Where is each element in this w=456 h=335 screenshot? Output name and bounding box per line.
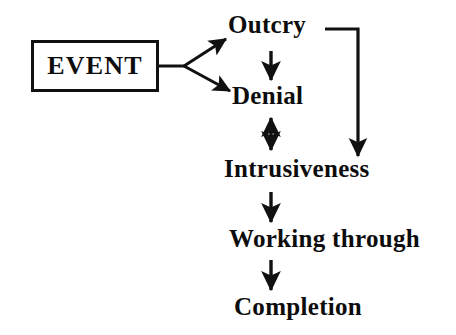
edge-outcry-to-intrusiveness (325, 29, 358, 156)
diagram-canvas: EVENT Outcry Denial Intrusiveness Workin… (0, 0, 456, 335)
node-label-completion: Completion (234, 294, 362, 319)
node-label-denial: Denial (232, 83, 303, 108)
edge-event-to-denial (184, 66, 230, 91)
node-label-outcry: Outcry (228, 12, 306, 37)
event-box: EVENT (31, 40, 159, 92)
edge-event-to-outcry (184, 39, 226, 66)
event-box-label: EVENT (47, 53, 143, 79)
node-label-intrusiveness: Intrusiveness (224, 156, 370, 181)
node-label-working-through: Working through (229, 226, 420, 251)
